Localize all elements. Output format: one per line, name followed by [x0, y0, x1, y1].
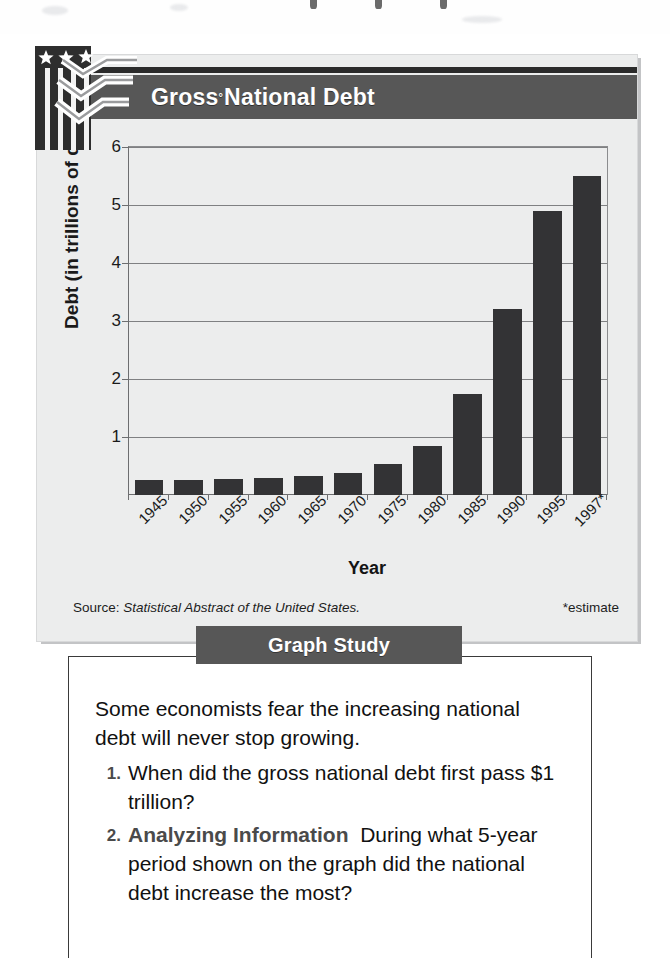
graph-study-box: Some economists fear the increasing nati… [68, 656, 592, 958]
x-axis-tick-labels: 1945195019551960196519701975198019851990… [128, 500, 606, 554]
scan-artifact-strip [0, 0, 670, 34]
x-label-slot: 1955 [208, 500, 248, 554]
x-axis-tick-label: 1997* [570, 490, 610, 530]
x-axis-tick-label: 1995 [533, 492, 569, 528]
x-axis-tick-label: 1970 [334, 492, 370, 528]
y-axis-tick [122, 321, 129, 322]
bar-slot [328, 147, 368, 495]
estimate-note: *estimate [563, 600, 633, 615]
x-axis-tick-label: 1950 [175, 492, 211, 528]
question-number: 2. [95, 821, 128, 908]
chart-plot-area: Debt (in trillions of dollars) 123456 19… [36, 128, 636, 588]
x-label-slot: 1997* [566, 500, 606, 554]
x-axis-tick-label: 1945 [135, 492, 171, 528]
bar-slot [169, 147, 209, 495]
graph-study-tab: Graph Study [196, 626, 462, 664]
graph-study-body: Some economists fear the increasing nati… [69, 657, 591, 908]
graph-study-question: 2.Analyzing Information During what 5-ye… [95, 821, 565, 908]
bar-slot [487, 147, 527, 495]
us-flag-chevron-logo-icon [33, 44, 151, 154]
y-axis-tick-label: 5 [99, 195, 121, 215]
y-axis-tick-label: 4 [99, 253, 121, 273]
graph-study-question: 1.When did the gross national debt first… [95, 759, 565, 817]
bar-1997est [573, 176, 602, 495]
question-skill-label: Analyzing Information [128, 823, 349, 846]
x-axis-title: Year [128, 558, 606, 579]
y-axis-tick-label: 3 [99, 311, 121, 331]
figure-title-bar: Gross°National Debt [69, 75, 637, 119]
bar-1985 [453, 394, 482, 496]
graph-study-question-list: 1.When did the gross national debt first… [95, 759, 565, 908]
bar-slot [567, 147, 607, 495]
question-number: 1. [95, 759, 128, 817]
bar-series [129, 147, 607, 495]
figure-title-text: Gross [151, 84, 218, 111]
scan-smudge-icon [462, 16, 502, 23]
x-label-slot: 1945 [128, 500, 168, 554]
bar-slot [368, 147, 408, 495]
x-label-slot: 1980 [407, 500, 447, 554]
y-axis-tick [122, 263, 129, 264]
x-axis-tick-label: 1955 [214, 492, 250, 528]
x-label-slot: 1975 [367, 500, 407, 554]
x-label-slot: 1985 [447, 500, 487, 554]
title-rule [69, 67, 637, 73]
y-axis-tick [122, 205, 129, 206]
bar-slot [209, 147, 249, 495]
figure-gross-national-debt: Gross°National Debt [33, 44, 637, 644]
x-label-slot: 1950 [168, 500, 208, 554]
graph-study-tab-label: Graph Study [268, 634, 390, 657]
y-axis-tick [122, 379, 129, 380]
x-label-slot: 1970 [327, 500, 367, 554]
source-row: Source: Statistical Abstract of the Unit… [73, 600, 633, 615]
bar-1975 [374, 464, 403, 495]
x-axis-tick-label: 1960 [254, 492, 290, 528]
bar-1990 [493, 309, 522, 495]
x-label-slot: 1960 [247, 500, 287, 554]
graph-study-intro: Some economists fear the increasing nati… [95, 695, 565, 753]
page-title: Gross°National Debt [69, 75, 637, 119]
title-superscript-mark: ° [218, 91, 223, 103]
bar-slot [248, 147, 288, 495]
scan-smudge-icon [170, 4, 188, 11]
bar-1995 [533, 211, 562, 495]
scan-speck-icon [440, 0, 447, 9]
scan-speck-icon [310, 0, 317, 9]
scan-speck-icon [375, 0, 382, 9]
y-axis-tick [122, 437, 129, 438]
source-label: Source: [73, 600, 123, 615]
bar-slot [129, 147, 169, 495]
x-label-slot: 1990 [486, 500, 526, 554]
bar-slot [408, 147, 448, 495]
bar-1980 [413, 446, 442, 495]
y-axis-tick-label: 2 [99, 369, 121, 389]
question-text: When did the gross national debt first p… [128, 759, 565, 817]
plot-frame: 123456 [128, 146, 608, 495]
question-text: Analyzing Information During what 5-year… [128, 821, 565, 908]
bar-slot [288, 147, 328, 495]
bar-slot [527, 147, 567, 495]
x-axis-tick-label: 1975 [374, 492, 410, 528]
x-axis-tick-label: 1990 [493, 492, 529, 528]
source-publication: Statistical Abstract of the United State… [123, 600, 360, 615]
x-axis-tick-label: 1965 [294, 492, 330, 528]
x-axis-tick-label: 1985 [453, 492, 489, 528]
x-axis-tick-label: 1980 [413, 492, 449, 528]
source-citation: Source: Statistical Abstract of the Unit… [73, 600, 360, 615]
figure-title-text-2: National Debt [224, 84, 375, 111]
x-label-slot: 1995 [526, 500, 566, 554]
bar-slot [448, 147, 488, 495]
x-label-slot: 1965 [287, 500, 327, 554]
y-axis-tick-label: 1 [99, 427, 121, 447]
